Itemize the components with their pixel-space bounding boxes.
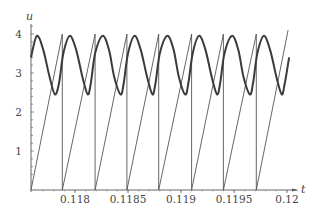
y-tick-labels: 1234	[15, 28, 22, 157]
x-tick-label: 0.1195	[216, 193, 253, 205]
y-tick-label: 1	[15, 145, 22, 157]
chart-svg: 0.1180.11850.1190.11950.12 1234 t u	[0, 0, 322, 218]
x-tick-labels: 0.1180.11850.1190.11950.12	[60, 193, 299, 205]
y-tick-label: 2	[15, 106, 22, 118]
x-axis-label: t	[301, 183, 306, 196]
x-tick-label: 0.118	[60, 193, 90, 205]
x-tick-label: 0.119	[166, 193, 196, 205]
x-tick-label: 0.12	[275, 193, 298, 205]
y-tick-label: 4	[15, 28, 22, 40]
y-axis-label: u	[26, 10, 33, 23]
y-tick-label: 3	[15, 67, 22, 79]
chart: 0.1180.11850.1190.11950.12 1234 t u	[0, 0, 322, 218]
x-tick-label: 0.1185	[110, 193, 147, 205]
oscillation-series	[31, 36, 289, 95]
